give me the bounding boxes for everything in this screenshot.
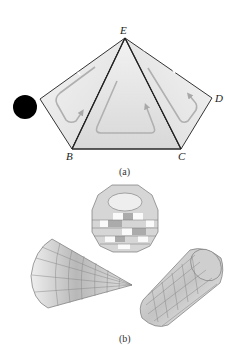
black-circle-occluder — [13, 95, 37, 119]
vertex-label-e: E — [119, 24, 127, 36]
vertex-label-b: B — [66, 150, 73, 162]
pentagon-diagram: E D B C (a) — [40, 24, 223, 178]
figure-canvas: E D B C (a) — [0, 0, 237, 345]
faceted-sphere — [92, 185, 158, 252]
vertex-label-c: C — [178, 150, 186, 162]
caption-a: (a) — [119, 166, 130, 178]
caption-b: (b) — [119, 333, 131, 345]
faceted-cylinder — [140, 243, 227, 326]
vertex-label-d: D — [214, 92, 223, 104]
